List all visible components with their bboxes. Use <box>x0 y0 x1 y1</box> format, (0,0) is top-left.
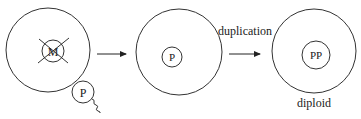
final-cell: PP <box>272 9 356 93</box>
maternal-nucleus: M <box>38 38 69 63</box>
diploid-nucleus-label: PP <box>310 49 322 61</box>
sperm-label: P <box>80 86 87 100</box>
sperm: P <box>72 81 100 113</box>
initial-cell: M P <box>6 8 100 113</box>
maternal-nucleus-label: M <box>48 45 59 59</box>
intermediate-cell: P <box>136 9 222 95</box>
diploid-caption: diploid <box>297 96 331 110</box>
paternal-nucleus-label: P <box>169 51 175 63</box>
intermediate-cell-membrane <box>136 9 222 95</box>
diagram-canvas: M P P duplication PP diploid <box>0 0 361 119</box>
sperm-tail-icon <box>92 99 100 113</box>
duplication-label: duplication <box>218 24 272 38</box>
